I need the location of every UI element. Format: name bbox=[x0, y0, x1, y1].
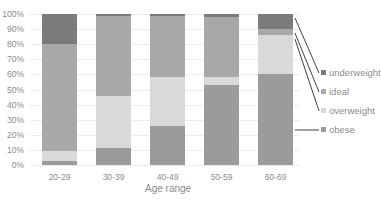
legend-swatch bbox=[321, 89, 326, 94]
legend-item-obese: obese bbox=[321, 124, 355, 135]
legend-swatch bbox=[321, 70, 326, 75]
legend-label: ideal bbox=[329, 86, 349, 97]
leader-line-overweight bbox=[295, 39, 319, 111]
legend-leader-lines bbox=[0, 0, 381, 200]
legend-label: overweight bbox=[329, 105, 375, 116]
legend-swatch bbox=[321, 127, 326, 132]
leader-line-underweight bbox=[295, 18, 319, 73]
leader-line-ideal bbox=[295, 33, 319, 92]
legend-swatch bbox=[321, 108, 326, 113]
stacked-bar-chart: 0%10%20%30%40%50%60%70%80%90%100% 20-293… bbox=[0, 0, 381, 200]
legend-label: underweight bbox=[329, 67, 381, 78]
legend-label: obese bbox=[329, 124, 355, 135]
legend-item-underweight: underweight bbox=[321, 67, 381, 78]
legend-item-overweight: overweight bbox=[321, 105, 375, 116]
legend-item-ideal: ideal bbox=[321, 86, 349, 97]
